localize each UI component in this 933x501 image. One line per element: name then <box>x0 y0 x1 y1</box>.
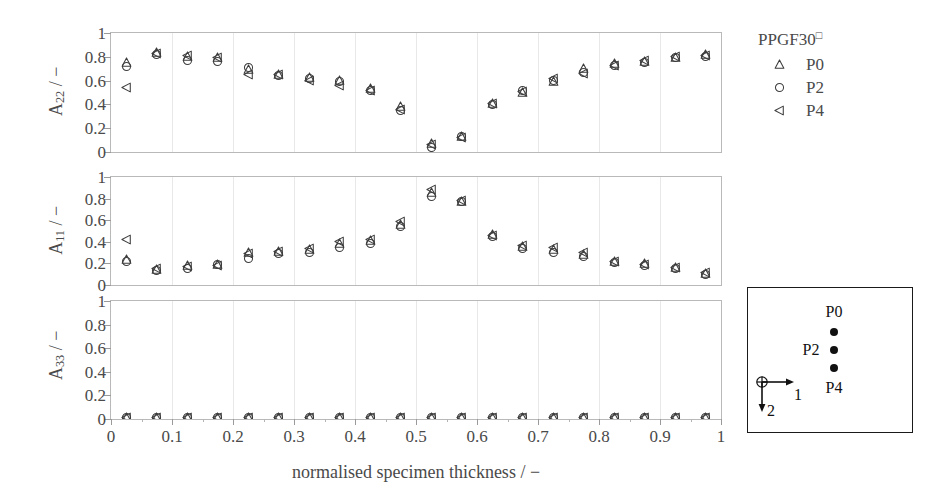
x-axis-tick <box>294 419 295 425</box>
data-point-marker-p2 <box>700 51 711 62</box>
data-point-marker-p2 <box>426 142 437 152</box>
legend-item-p2[interactable]: P2 <box>766 76 824 99</box>
x-axis-tick <box>721 419 722 425</box>
data-point-marker-p0 <box>548 76 559 87</box>
data-point-marker-p4 <box>243 248 254 259</box>
specimen-schematic-inset: P0 P2 P4 1 2 <box>747 287 913 433</box>
y-axis-tick-label: 0 <box>98 411 107 428</box>
data-point-marker-p0 <box>334 412 345 419</box>
y-axis-label-symbol: A <box>46 367 66 380</box>
data-point-marker-p4 <box>212 412 223 419</box>
data-point-marker-p2 <box>304 412 315 419</box>
gridline-vertical <box>233 33 234 152</box>
data-point-marker-p2 <box>151 49 162 60</box>
data-point-marker-p2 <box>182 55 193 66</box>
data-point-marker-p4 <box>609 412 620 419</box>
data-point-marker-p0 <box>304 72 315 83</box>
gridline-vertical <box>416 177 417 285</box>
data-point-marker-p4 <box>548 412 559 419</box>
data-point-marker-p4 <box>273 69 284 80</box>
data-point-marker-p4 <box>365 85 376 96</box>
legend-item-p4[interactable]: P4 <box>766 99 824 122</box>
data-point-marker-p4 <box>517 86 528 97</box>
y-axis-tick-label: 0.4 <box>85 233 106 250</box>
data-point-marker-p2 <box>212 259 223 270</box>
y-axis-label-subscript: 33 <box>53 355 67 367</box>
data-point-marker-p0 <box>243 247 254 258</box>
data-point-marker-p4 <box>700 267 711 278</box>
data-point-marker-p0 <box>334 75 345 86</box>
gridline-vertical <box>233 177 234 285</box>
y-axis-tick-label: 0 <box>98 144 107 161</box>
x-axis-tick-label: 0.9 <box>649 428 670 445</box>
data-point-marker-p0 <box>487 98 498 109</box>
data-point-marker-p2 <box>334 412 345 419</box>
x-axis-tick-label: 0.7 <box>527 428 548 445</box>
data-point-marker-p4 <box>121 412 132 419</box>
plot-panel-a22: 00.20.40.60.81 <box>110 32 722 153</box>
data-point-marker-p4 <box>395 216 406 227</box>
data-point-marker-p0 <box>670 412 681 419</box>
data-point-marker-p4 <box>578 68 589 79</box>
gridline-vertical <box>538 33 539 152</box>
x-axis-minor-tick <box>447 419 448 422</box>
data-point-marker-p4 <box>426 184 437 195</box>
y-axis-tick-label: 0.6 <box>85 72 106 89</box>
data-point-marker-p0 <box>212 259 223 270</box>
y-axis-label-unit: / − <box>46 206 66 226</box>
data-point-marker-p4 <box>517 412 528 419</box>
data-point-marker-p0 <box>243 412 254 419</box>
data-point-marker-p0 <box>334 238 345 249</box>
data-point-marker-p2 <box>304 73 315 84</box>
data-point-marker-p4 <box>670 412 681 419</box>
data-point-marker-p0 <box>487 229 498 240</box>
data-point-marker-p4 <box>182 261 193 272</box>
gridline-vertical <box>355 33 356 152</box>
data-point-marker-p0 <box>212 52 223 63</box>
data-point-marker-p2 <box>182 263 193 274</box>
gridline-vertical <box>599 33 600 152</box>
data-point-marker-p0 <box>182 51 193 62</box>
data-point-marker-p4 <box>304 75 315 86</box>
data-point-marker-p0 <box>548 244 559 255</box>
legend-item-label: P0 <box>806 55 824 75</box>
data-point-marker-p0 <box>365 83 376 94</box>
data-point-marker-p2 <box>548 75 559 86</box>
data-point-marker-p4 <box>273 246 284 257</box>
data-point-marker-p2 <box>121 61 132 72</box>
data-point-marker-p2 <box>670 263 681 274</box>
x-axis-minor-tick <box>325 419 326 422</box>
x-axis-minor-tick <box>630 419 631 422</box>
x-axis-minor-tick <box>264 419 265 422</box>
y-axis-tick-label: 0.8 <box>85 316 106 333</box>
inset-point-label-p2: P2 <box>803 341 820 359</box>
data-point-marker-p2 <box>670 412 681 419</box>
data-point-marker-p4 <box>121 82 132 93</box>
y-axis-tick-label: 0.8 <box>85 48 106 65</box>
data-point-marker-p0 <box>182 412 193 419</box>
gridline-vertical <box>599 301 600 419</box>
x-axis-tick-label: 0 <box>107 428 116 445</box>
gridline-vertical <box>477 177 478 285</box>
x-axis-minor-tick <box>691 419 692 422</box>
data-point-marker-p0 <box>121 412 132 419</box>
legend-item-label: P4 <box>806 101 824 121</box>
data-point-marker-p0 <box>456 131 467 142</box>
data-point-marker-p4 <box>151 48 162 59</box>
y-axis-tick-label: 0.6 <box>85 212 106 229</box>
plot-area-a22 <box>111 33 721 152</box>
gridline-vertical <box>294 33 295 152</box>
x-axis-tick <box>416 419 417 425</box>
inset-axis-2-label: 2 <box>767 402 775 420</box>
legend-items: P0P2P4 <box>758 53 824 122</box>
data-point-marker-p0 <box>365 235 376 246</box>
plot-area-a33 <box>111 301 721 419</box>
x-axis-tick-label: 1 <box>717 428 726 445</box>
data-point-marker-p4 <box>304 243 315 254</box>
y-axis-tick-label: 0.2 <box>85 120 106 137</box>
data-point-marker-p2 <box>212 56 223 67</box>
x-axis-tick <box>233 419 234 425</box>
data-point-marker-p2 <box>609 412 620 419</box>
legend-item-p0[interactable]: P0 <box>766 53 824 76</box>
data-point-marker-p0 <box>182 260 193 271</box>
